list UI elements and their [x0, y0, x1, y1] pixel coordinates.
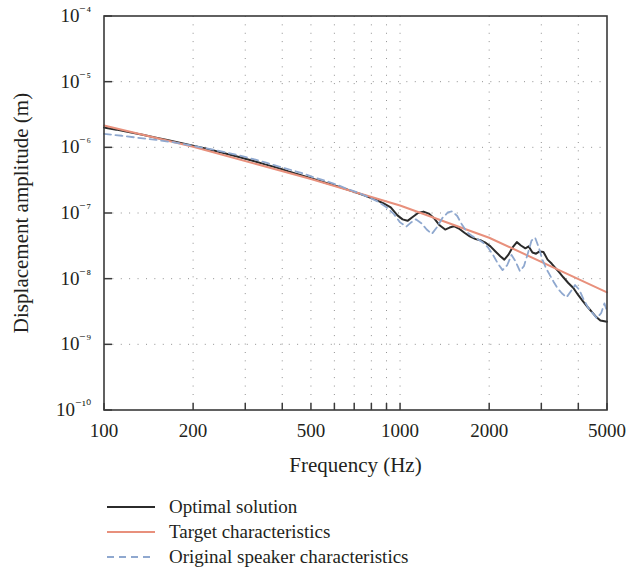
x-tick-label: 200: [179, 420, 208, 441]
plot-background: [104, 16, 607, 410]
legend-item: Target characteristics: [105, 519, 575, 544]
y-tick-label: 10⁻⁹: [60, 331, 91, 354]
y-tick-label: 10⁻⁶: [60, 134, 91, 157]
legend-line-sample-original-speaker-characteristics: [105, 550, 157, 564]
y-tick-label: 10⁻⁴: [60, 3, 91, 26]
x-tick-label: 5000: [588, 420, 626, 441]
legend-item: Optimal solution: [105, 494, 575, 519]
y-tick-labels: 10⁻¹⁰10⁻⁹10⁻⁸10⁻⁷10⁻⁶10⁻⁵10⁻⁴: [56, 3, 91, 420]
y-tick-label: 10⁻⁸: [60, 266, 91, 289]
x-tick-label: 2000: [470, 420, 508, 441]
legend-label-target-characteristics: Target characteristics: [169, 522, 330, 541]
legend-label-optimal-solution: Optimal solution: [169, 497, 297, 516]
figure-container: 10020050010002000500010⁻¹⁰10⁻⁹10⁻⁸10⁻⁷10…: [0, 0, 639, 573]
legend-item: Original speaker characteristics: [105, 544, 575, 569]
legend-label-original-speaker-characteristics: Original speaker characteristics: [169, 547, 409, 566]
chart-legend: Optimal solution Target characteristics …: [105, 494, 575, 569]
y-tick-label: 10⁻¹⁰: [56, 397, 91, 420]
legend-line-sample-optimal-solution: [105, 500, 157, 514]
legend-line-sample-target-characteristics: [105, 525, 157, 539]
x-tick-labels: 100200500100020005000: [90, 420, 626, 441]
x-axis-label: Frequency (Hz): [289, 453, 421, 477]
x-tick-label: 1000: [381, 420, 419, 441]
y-axis-label: Displacement amplitude (m): [9, 93, 33, 333]
x-tick-label: 500: [297, 420, 326, 441]
y-tick-label: 10⁻⁵: [60, 69, 91, 92]
chart-plot: 10020050010002000500010⁻¹⁰10⁻⁹10⁻⁸10⁻⁷10…: [0, 0, 639, 573]
x-tick-label: 100: [90, 420, 119, 441]
y-tick-label: 10⁻⁷: [60, 200, 91, 223]
